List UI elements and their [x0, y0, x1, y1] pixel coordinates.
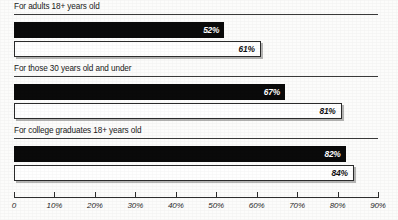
axis-tick [176, 192, 177, 198]
axis-tick-label: 20% [87, 201, 103, 210]
axis-tick-label: 0 [12, 201, 16, 210]
group-label: For adults 18+ years old [14, 2, 100, 12]
bar-track: 61% [14, 41, 378, 57]
bar-light[interactable]: 84% [14, 165, 354, 181]
axis-tick [378, 192, 379, 198]
axis-tick [135, 192, 136, 198]
axis-tick [216, 192, 217, 198]
group-rule [14, 138, 378, 139]
axis-tick-label: 80% [330, 201, 346, 210]
axis-tick-label: 10% [47, 201, 63, 210]
axis-tick [14, 192, 15, 198]
axis-tick-label: 70% [289, 201, 305, 210]
axis-line [14, 197, 378, 198]
axis-tick [257, 192, 258, 198]
bar-chart: For adults 18+ years old 52% 61% For tho… [0, 0, 398, 220]
axis-tick-label: 30% [127, 201, 143, 210]
bar-value-label: 52% [203, 25, 219, 35]
bar-track: 52% [14, 22, 378, 38]
bar-light[interactable]: 81% [14, 103, 342, 119]
bar-value-label: 84% [332, 168, 348, 178]
x-axis: 010%20%30%40%50%60%70%80%90% [14, 192, 378, 220]
axis-tick-label: 60% [249, 201, 265, 210]
axis-tick-label: 50% [208, 201, 224, 210]
axis-tick-label: 40% [168, 201, 184, 210]
bar-value-label: 81% [319, 106, 335, 116]
bar-dark[interactable]: 67% [14, 84, 285, 100]
bar-track: 84% [14, 165, 378, 181]
group-rule [14, 76, 378, 77]
bar-track: 67% [14, 84, 378, 100]
axis-tick [297, 192, 298, 198]
group-rule [14, 14, 378, 15]
bar-dark[interactable]: 52% [14, 22, 224, 38]
bar-value-label: 61% [239, 44, 255, 54]
bar-dark[interactable]: 82% [14, 146, 346, 162]
axis-tick [338, 192, 339, 198]
axis-tick-label: 90% [370, 201, 386, 210]
bar-value-label: 67% [264, 87, 280, 97]
group-label: For those 30 years old and under [14, 64, 131, 74]
bar-track: 82% [14, 146, 378, 162]
bar-light[interactable]: 61% [14, 41, 261, 57]
axis-tick [95, 192, 96, 198]
axis-tick [54, 192, 55, 198]
bar-value-label: 82% [324, 149, 340, 159]
group-label: For college graduates 18+ years old [14, 126, 141, 136]
bar-track: 81% [14, 103, 378, 119]
